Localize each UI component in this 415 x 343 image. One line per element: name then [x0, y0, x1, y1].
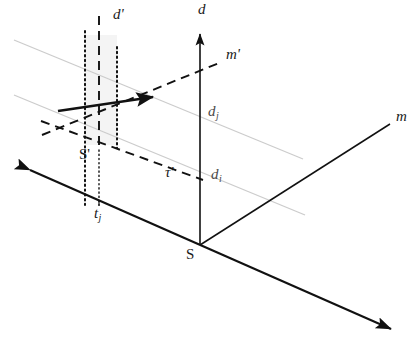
diagram-svg — [0, 0, 415, 343]
tick-label-di-subscript: i — [219, 173, 222, 184]
tick-label-tj: tj — [94, 206, 101, 223]
point-label-S-prime: S' — [79, 147, 90, 162]
depth-line-dj — [14, 40, 303, 159]
tick-label-tj-subscript: j — [99, 212, 102, 223]
figure-canvas: d m d' m' τ' S S' tj dj di — [0, 0, 415, 343]
axis-label-d-prime: d' — [113, 7, 124, 22]
tau-prime-axis-line — [41, 121, 203, 180]
depth-line-di — [14, 95, 305, 215]
axis-label-d: d — [198, 2, 206, 17]
vertical-shaded-band — [85, 35, 117, 145]
axis-label-m-prime: m' — [226, 47, 240, 62]
tick-label-di-base: d — [211, 166, 219, 182]
tick-label-dj: dj — [208, 104, 219, 121]
point-label-S: S — [186, 247, 194, 262]
tick-label-dj-base: d — [208, 103, 216, 119]
axis-label-tau-prime: τ' — [165, 165, 174, 180]
m-axis-line — [200, 124, 390, 245]
tick-label-tj-base: t — [94, 205, 98, 221]
axis-label-m: m — [396, 109, 407, 124]
tick-label-di: di — [211, 167, 222, 184]
tick-label-dj-subscript: j — [216, 110, 219, 121]
